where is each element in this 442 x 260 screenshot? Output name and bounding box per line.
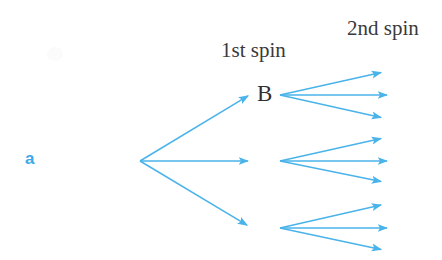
second-spin-label: 2nd spin — [347, 18, 419, 39]
figure-canvas: 1st spin 2nd spin B a — [0, 0, 442, 260]
branch-second-middle-down — [280, 161, 381, 182]
node-b-label: B — [257, 82, 272, 105]
branch-second-top-down — [280, 95, 381, 117]
first-spin-label: 1st spin — [221, 40, 286, 61]
panel-label-a: a — [25, 150, 34, 167]
branch-first-top — [140, 96, 248, 161]
branch-second-bottom-down — [280, 228, 381, 249]
first-spin-branches — [140, 96, 248, 225]
second-spin-top-cluster — [280, 73, 387, 118]
branch-second-bottom-up — [280, 205, 381, 228]
second-spin-bottom-cluster — [280, 205, 387, 249]
second-spin-middle-cluster — [280, 139, 387, 182]
branch-first-bottom — [140, 161, 247, 225]
branch-second-middle-up — [280, 139, 381, 161]
branch-second-top-up — [280, 73, 381, 95]
